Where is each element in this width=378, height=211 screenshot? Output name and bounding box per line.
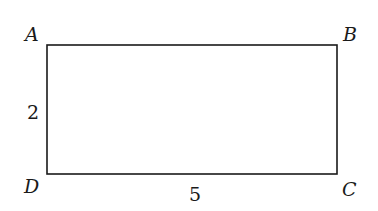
vertex-label-a: A [23, 23, 39, 45]
side-length-ad: 2 [27, 101, 39, 123]
side-length-dc: 5 [189, 183, 201, 205]
vertex-label-b: B [342, 23, 357, 45]
rectangle-abcd [47, 45, 337, 174]
vertex-label-d: D [23, 175, 39, 197]
vertex-label-c: C [342, 178, 357, 200]
rectangle-diagram: A B C D 2 5 [0, 0, 378, 211]
